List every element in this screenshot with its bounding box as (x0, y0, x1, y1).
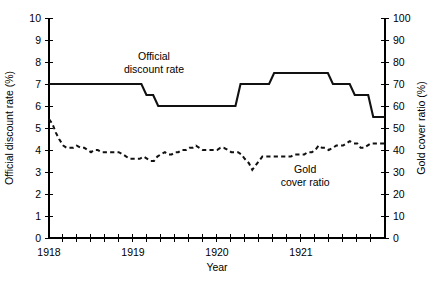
left-tick-label: 2 (35, 188, 41, 200)
left-tick-label: 9 (35, 34, 41, 46)
right-tick-label: 80 (393, 56, 405, 68)
series-annotations: Officialdiscount rateGoldcover ratio (124, 50, 330, 188)
axes-group (49, 18, 385, 238)
discount-rate-gold-cover-chart: 012345678910 0102030405060708090100 1918… (0, 0, 437, 284)
data-series-group (49, 73, 385, 170)
left-tick-label: 0 (35, 232, 41, 244)
official-discount-rate-line (49, 73, 385, 117)
right-tick-label: 20 (393, 188, 405, 200)
x-tick-label: 1918 (37, 246, 61, 258)
left-tick-label: 4 (35, 144, 41, 156)
x-axis-title: Year (206, 261, 228, 273)
y2-axis-title: Gold cover ratio (%) (415, 81, 427, 174)
gold-cover-ratio-line (49, 119, 385, 170)
right-tick-label: 40 (393, 144, 405, 156)
left-tick-label: 3 (35, 166, 41, 178)
annotation-line-2: cover ratio (281, 176, 330, 188)
annotation-line-1: Gold (294, 163, 316, 175)
left-tick-label: 6 (35, 100, 41, 112)
y-axis-title: Official discount rate (%) (3, 71, 15, 185)
left-tick-label: 10 (29, 12, 41, 24)
left-tick-label: 5 (35, 122, 41, 134)
right-tick-label: 0 (393, 232, 399, 244)
left-tick-label: 7 (35, 78, 41, 90)
right-tick-label: 60 (393, 100, 405, 112)
left-tick-label: 8 (35, 56, 41, 68)
right-tick-label: 90 (393, 34, 405, 46)
x-tick-label: 1920 (205, 246, 229, 258)
right-tick-label: 50 (393, 122, 405, 134)
left-tick-label: 1 (35, 210, 41, 222)
annotation-line-1: Official (138, 50, 170, 62)
chart-figure: 012345678910 0102030405060708090100 1918… (0, 0, 437, 284)
right-tick-label: 100 (393, 12, 411, 24)
x-tick-label: 1919 (121, 246, 145, 258)
annotation-line-2: discount rate (124, 63, 184, 75)
right-tick-label: 30 (393, 166, 405, 178)
right-tick-label: 10 (393, 210, 405, 222)
x-tick-label: 1921 (289, 246, 313, 258)
right-tick-label: 70 (393, 78, 405, 90)
